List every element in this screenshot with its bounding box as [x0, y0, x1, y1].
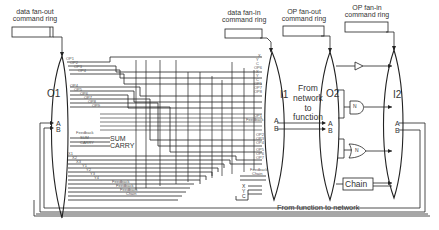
i1-c: C	[242, 194, 246, 199]
o1-port-b: B	[56, 126, 61, 133]
i2-label: I2	[393, 90, 401, 100]
i2-ellipse	[384, 50, 404, 198]
o1-x3: X3	[76, 160, 81, 164]
op-fanout-ring-box	[283, 26, 324, 36]
fn-line-4: function	[288, 113, 328, 123]
op-fanin-ring-box	[345, 22, 388, 32]
circuit-diagram	[0, 0, 439, 230]
fanout-connector	[50, 27, 62, 55]
i1-port-a: A	[274, 117, 279, 124]
i1-mid-1: Feedback	[246, 118, 264, 122]
op-fanout-line2: command ring	[281, 15, 327, 22]
data-fanin-line1: data fan-in	[222, 9, 266, 16]
o1-op-mid-5: OP9	[92, 104, 100, 108]
buffer-gate	[355, 62, 363, 70]
data-fanout-label: data fan-out command ring	[12, 8, 58, 22]
op-fanin-label: OP fan-in command ring	[344, 4, 390, 18]
data-fanout-line2: command ring	[12, 15, 58, 22]
i1-chain: Chain	[252, 172, 262, 176]
o1-op-top-3: OP4	[78, 69, 86, 73]
data-fanin-label: data fan-in command ring	[222, 9, 266, 23]
sum-label: SUM	[110, 135, 126, 142]
data-fanin-line2: command ring	[222, 16, 266, 23]
op-fanout-label: OP fan-out command ring	[281, 8, 327, 22]
o1-label: O1	[47, 89, 60, 99]
i2-port-b: B	[395, 127, 400, 134]
from-function-to-network-label: From function to network	[277, 204, 360, 212]
i1-port-b: B	[274, 125, 279, 132]
data-fanin-ring-box	[225, 29, 262, 38]
o2-port-a: A	[328, 120, 333, 127]
i1-mid-4: OP4	[256, 141, 264, 145]
o1-carry-small: CARRY	[80, 141, 94, 145]
o1-ellipse	[52, 56, 69, 218]
o2-label: O2	[326, 89, 339, 99]
o2-port-b: B	[328, 127, 333, 134]
op-fanin-line1: OP fan-in	[344, 4, 390, 11]
data-fanout-line1: data fan-out	[12, 8, 58, 15]
i1-mid-7: OP7	[256, 156, 264, 160]
carry-label: CARRY	[110, 142, 134, 149]
op-fanin-line2: command ring	[344, 11, 390, 18]
o1-chain: Chain	[126, 192, 136, 196]
or-gate-label: N	[355, 148, 359, 153]
i1-in-9: OP8	[254, 90, 262, 94]
i2-port-a: A	[395, 120, 400, 127]
chain-label: Chain	[345, 180, 367, 189]
from-network-to-function-label: From network to function	[288, 84, 328, 123]
data-fanout-ring-box	[12, 27, 53, 37]
o1-y4: Y4	[94, 176, 99, 180]
op-fanout-line1: OP fan-out	[281, 8, 327, 15]
and-gate-label: N	[353, 104, 357, 109]
